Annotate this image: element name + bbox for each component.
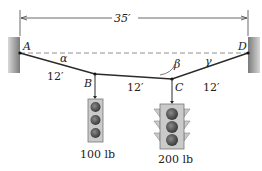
angle-gamma: γ [205, 55, 212, 68]
cable-diagram: 35′ A B C D α β γ 12′ 12′ 12′ 100 lb [0, 0, 262, 171]
point-d [246, 51, 249, 54]
lamp-icon [91, 128, 101, 138]
lamp-icon [166, 121, 178, 133]
right-wall [248, 37, 260, 73]
left-wall [8, 37, 20, 73]
label-d: D [237, 40, 247, 53]
traffic-light-large [154, 104, 190, 149]
span-label: 35′ [114, 12, 131, 25]
label-b: B [83, 77, 92, 90]
lamp-icon [166, 134, 178, 146]
point-a [18, 51, 21, 54]
traffic-light-small [88, 99, 103, 142]
span-dimension [20, 10, 248, 36]
length-ab: 12′ [47, 70, 64, 83]
length-cd: 12′ [203, 81, 220, 94]
length-bc: 12′ [127, 81, 144, 94]
lamp-icon [166, 108, 178, 120]
angle-beta: β [173, 58, 180, 71]
hanger-b-arrow [93, 96, 97, 99]
hanger-c-arrow [170, 101, 174, 104]
load-b: 100 lb [80, 148, 115, 161]
lamp-icon [91, 102, 101, 112]
label-c: C [175, 81, 184, 94]
label-a: A [22, 40, 31, 53]
lamp-icon [91, 115, 101, 125]
load-c: 200 lb [158, 153, 193, 166]
beta-leader [160, 64, 175, 75]
angle-alpha: α [60, 52, 68, 65]
